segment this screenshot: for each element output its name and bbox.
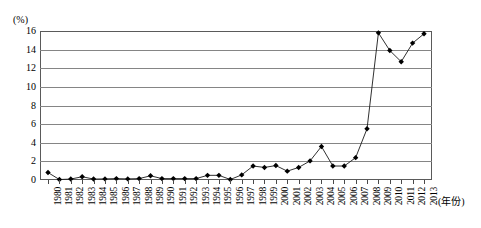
x-tick-label: 1992 bbox=[189, 187, 199, 205]
y-axis-tick-labels: 0246810121416 bbox=[12, 0, 36, 228]
x-tick-label: 1999 bbox=[269, 187, 279, 205]
x-tick-label: 1998 bbox=[258, 187, 268, 205]
x-tick-label: 1988 bbox=[144, 187, 154, 205]
data-point-marker bbox=[79, 174, 84, 179]
x-tick-mark bbox=[59, 180, 60, 184]
x-tick-mark bbox=[413, 180, 414, 184]
x-tick-label: 1982 bbox=[75, 187, 85, 205]
line-chart: (%) 0246810121416 1980198119821983198419… bbox=[0, 0, 481, 228]
x-tick-mark bbox=[321, 180, 322, 184]
y-tick-label: 12 bbox=[16, 63, 36, 73]
x-tick-mark bbox=[276, 180, 277, 184]
data-point-marker bbox=[285, 168, 290, 173]
x-tick-mark bbox=[401, 180, 402, 184]
y-tick-label: 0 bbox=[16, 175, 36, 185]
data-series-line bbox=[40, 31, 432, 180]
x-tick-label: 1991 bbox=[178, 187, 188, 205]
x-tick-label: 1987 bbox=[132, 187, 142, 205]
x-tick-label: 1996 bbox=[235, 187, 245, 205]
y-tick-label: 14 bbox=[16, 45, 36, 55]
x-tick-label: 2002 bbox=[303, 187, 313, 205]
x-tick-mark bbox=[310, 180, 311, 184]
x-tick-mark bbox=[105, 180, 106, 184]
x-tick-mark bbox=[71, 180, 72, 184]
y-tick-label: 4 bbox=[16, 138, 36, 148]
x-tick-mark bbox=[299, 180, 300, 184]
x-tick-mark bbox=[264, 180, 265, 184]
x-tick-label: 2010 bbox=[394, 187, 404, 205]
x-tick-label: 2000 bbox=[280, 187, 290, 205]
x-tick-label: 1989 bbox=[155, 187, 165, 205]
x-tick-mark bbox=[151, 180, 152, 184]
x-tick-label: 1986 bbox=[121, 187, 131, 205]
x-tick-label: 1995 bbox=[223, 187, 233, 205]
x-tick-mark bbox=[82, 180, 83, 184]
x-tick-mark bbox=[219, 180, 220, 184]
x-tick-mark bbox=[48, 180, 49, 184]
plot-area bbox=[40, 31, 432, 180]
x-tick-label: 2005 bbox=[337, 187, 347, 205]
x-tick-label: 1980 bbox=[53, 187, 63, 205]
x-tick-mark bbox=[196, 180, 197, 184]
y-tick-label: 8 bbox=[16, 101, 36, 111]
x-tick-mark bbox=[344, 180, 345, 184]
data-point-marker bbox=[330, 163, 335, 168]
x-tick-mark bbox=[94, 180, 95, 184]
x-tick-mark bbox=[128, 180, 129, 184]
x-tick-label: 1983 bbox=[87, 187, 97, 205]
x-tick-mark bbox=[378, 180, 379, 184]
x-tick-mark bbox=[333, 180, 334, 184]
series-polyline bbox=[48, 33, 424, 180]
x-tick-label: 2001 bbox=[292, 187, 302, 205]
x-tick-mark bbox=[208, 180, 209, 184]
x-tick-mark bbox=[173, 180, 174, 184]
x-tick-label: 1990 bbox=[166, 187, 176, 205]
x-tick-mark bbox=[367, 180, 368, 184]
x-tick-mark bbox=[230, 180, 231, 184]
data-point-marker bbox=[216, 173, 221, 178]
x-tick-mark bbox=[139, 180, 140, 184]
x-tick-label: 1993 bbox=[201, 187, 211, 205]
x-tick-label: 1994 bbox=[212, 187, 222, 205]
data-point-marker bbox=[296, 165, 301, 170]
data-point-marker bbox=[262, 165, 267, 170]
x-tick-label: 1985 bbox=[109, 187, 119, 205]
x-axis-title: (年份) bbox=[438, 196, 465, 207]
data-point-marker bbox=[205, 173, 210, 178]
x-tick-label: 2004 bbox=[326, 187, 336, 205]
x-tick-label: 1997 bbox=[246, 187, 256, 205]
x-tick-mark bbox=[116, 180, 117, 184]
x-tick-label: 1984 bbox=[98, 187, 108, 205]
x-tick-label: 1981 bbox=[64, 187, 74, 205]
x-tick-label: 2008 bbox=[372, 187, 382, 205]
x-tick-label: 2012 bbox=[417, 187, 427, 205]
y-tick-label: 2 bbox=[16, 156, 36, 166]
x-tick-mark bbox=[390, 180, 391, 184]
data-point-marker bbox=[376, 30, 381, 35]
data-point-marker bbox=[273, 163, 278, 168]
x-tick-label: 2013 bbox=[429, 187, 439, 205]
data-point-marker bbox=[45, 170, 50, 175]
y-tick-label: 6 bbox=[16, 119, 36, 129]
x-tick-mark bbox=[242, 180, 243, 184]
y-tick-label: 16 bbox=[16, 26, 36, 36]
x-tick-mark bbox=[287, 180, 288, 184]
x-tick-mark bbox=[162, 180, 163, 184]
data-point-marker bbox=[148, 173, 153, 178]
x-tick-mark bbox=[185, 180, 186, 184]
x-tick-label: 2006 bbox=[349, 187, 359, 205]
x-tick-label: 2007 bbox=[360, 187, 370, 205]
x-tick-mark bbox=[253, 180, 254, 184]
x-tick-mark bbox=[424, 180, 425, 184]
x-tick-label: 2009 bbox=[383, 187, 393, 205]
y-tick-label: 10 bbox=[16, 82, 36, 92]
x-tick-label: 2011 bbox=[406, 187, 416, 205]
x-tick-mark bbox=[356, 180, 357, 184]
x-axis-tick-labels: 1980198119821983198419851986198719881989… bbox=[40, 180, 432, 228]
data-point-marker bbox=[364, 126, 369, 131]
x-tick-label: 2003 bbox=[315, 187, 325, 205]
